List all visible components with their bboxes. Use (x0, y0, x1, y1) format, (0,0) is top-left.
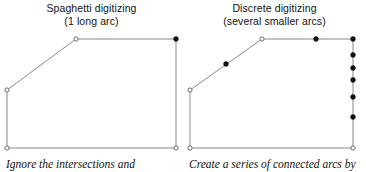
panel-spaghetti-digitizing: Spaghetti digitizing (1 long arc) Ignore… (0, 0, 183, 172)
vertex-arc-node-top-right (174, 37, 179, 42)
spaghetti-diagram-svg (0, 0, 183, 172)
vertex-node-right-5 (351, 115, 356, 120)
vertex-node-right-2 (351, 66, 356, 71)
vertex-arc-bend-top (74, 37, 78, 41)
vertex-arc-start-left (188, 88, 192, 92)
discrete-diagram-svg (183, 0, 366, 172)
discrete-vertex-group (188, 37, 356, 150)
panel-discrete-digitizing: Discrete digitizing (several smaller arc… (183, 0, 366, 172)
vertex-node-right-3 (351, 78, 356, 83)
vertex-arc-corner-bottom-left (5, 146, 9, 150)
vertex-arc-corner-bottom-left (188, 146, 192, 150)
vertex-node-right-4 (351, 95, 356, 100)
vertex-arc-corner-bottom-right (351, 146, 355, 150)
discrete-arc-polyline (190, 39, 353, 148)
spaghetti-arc-polyline (7, 39, 176, 148)
vertex-arc-start-left (5, 88, 9, 92)
panel-caption-discrete: Create a series of connected arcs by (189, 158, 366, 171)
vertex-arc-corner-bottom-right (174, 146, 178, 150)
vertex-node-top-mid (314, 37, 319, 42)
digitizing-comparison-figure: Spaghetti digitizing (1 long arc) Ignore… (0, 0, 366, 172)
panel-caption-spaghetti: Ignore the intersections and (6, 158, 183, 171)
spaghetti-vertex-group (5, 37, 179, 150)
vertex-node-right-1 (351, 53, 356, 58)
vertex-node-top-right-corner (351, 37, 356, 42)
vertex-node-diagonal-mid (224, 62, 229, 67)
vertex-arc-bend-top (260, 37, 264, 41)
